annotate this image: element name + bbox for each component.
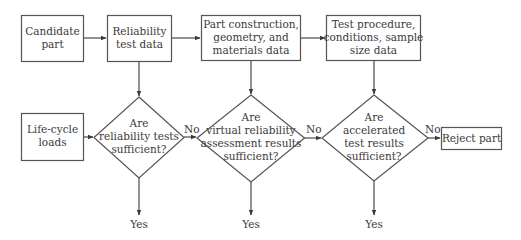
node-label: Are: [129, 117, 149, 129]
node-label: materials data: [213, 44, 290, 56]
node-label: Reliability: [112, 25, 166, 37]
node-life-cycle-loads: Life-cycle loads: [22, 114, 84, 161]
node-label: reliability tests: [99, 130, 179, 142]
decision-reliability-tests: Are reliability tests sufficient?: [94, 97, 184, 178]
decision-virtual-assessment: Are virtual reliability assessment resul…: [197, 95, 305, 182]
no-label: No: [184, 123, 200, 135]
node-reliability-test-data: Reliability test data: [108, 16, 172, 62]
no-label: No: [306, 123, 322, 135]
node-label: Life-cycle: [27, 123, 78, 135]
node-test-procedure: Test procedure, conditions, sample size …: [324, 16, 424, 61]
node-part-construction: Part construction, geometry, and materia…: [202, 16, 301, 61]
node-label: sufficient?: [346, 150, 401, 162]
node-label: geometry, and: [213, 31, 289, 43]
node-label: accelerated: [343, 124, 406, 136]
node-label: size data: [350, 44, 397, 56]
node-label: Reject part: [442, 132, 502, 144]
node-label: part: [41, 38, 64, 50]
yes-label: Yes: [241, 218, 260, 230]
no-label: No: [425, 123, 441, 135]
node-label: test results: [344, 137, 404, 149]
node-label: virtual reliability: [205, 124, 295, 136]
node-label: Test procedure,: [332, 18, 416, 30]
node-label: loads: [38, 136, 66, 148]
node-label: Are: [364, 111, 384, 123]
node-label: sufficient?: [111, 143, 166, 155]
node-candidate-part: Candidate part: [22, 16, 84, 62]
node-label: conditions, sample: [324, 31, 424, 43]
yes-label: Yes: [364, 218, 383, 230]
node-reject-part: Reject part: [442, 128, 502, 150]
node-label: assessment results: [201, 137, 302, 149]
node-label: Candidate: [25, 25, 80, 37]
node-label: Are: [241, 111, 261, 123]
node-label: sufficient?: [223, 150, 278, 162]
decision-accelerated-tests: Are accelerated test results sufficient?: [322, 95, 428, 181]
reliability-flowchart: Candidate part Reliability test data Par…: [0, 0, 521, 240]
yes-label: Yes: [129, 218, 148, 230]
node-label: Part construction,: [203, 18, 299, 30]
node-label: test data: [116, 38, 163, 50]
